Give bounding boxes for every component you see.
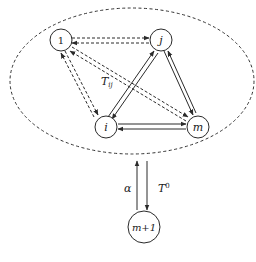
node-i: i: [95, 116, 117, 138]
edge-1-i: [61, 51, 98, 117]
svg-text:m: m: [193, 121, 203, 134]
network-diagram: Tij α T0 1 j i m m+1: [0, 0, 256, 262]
edge-label-t0: T0: [158, 182, 170, 195]
system-boundary-ellipse: [10, 8, 254, 154]
edge-1-m: [70, 47, 188, 121]
edge-i-j: [108, 51, 158, 119]
svg-text:1: 1: [58, 35, 64, 46]
edge-i-m: [118, 124, 186, 129]
edge-label-tij: Tij: [101, 75, 114, 89]
node-1: 1: [50, 29, 72, 51]
svg-text:m+1: m+1: [132, 222, 156, 233]
svg-text:i: i: [104, 121, 108, 134]
node-m: m: [187, 116, 209, 138]
node-m-plus-1: m+1: [128, 211, 160, 243]
edge-j-m: [164, 51, 196, 115]
edge-label-alpha: α: [124, 182, 132, 195]
edge-1-j: [72, 38, 149, 43]
node-j: j: [150, 29, 172, 51]
